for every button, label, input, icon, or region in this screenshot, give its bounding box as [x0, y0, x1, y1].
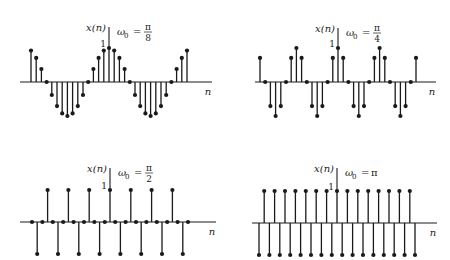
stem-dot: [367, 80, 371, 84]
stem-dot: [150, 188, 154, 192]
stem-dot: [372, 56, 376, 60]
stem-dot: [393, 104, 397, 108]
stem-dot: [300, 56, 304, 60]
stem-dot: [403, 253, 407, 257]
stem-dot: [133, 93, 137, 97]
stem-dot: [39, 67, 43, 71]
stem-dot: [50, 93, 54, 97]
omega-fraction-denominator: 2: [146, 174, 152, 184]
stem-dot: [175, 67, 179, 71]
stem-dot: [283, 189, 287, 193]
equals-sign: =: [362, 27, 370, 38]
stem-dot: [352, 104, 356, 108]
stem-dot: [165, 220, 169, 224]
stem-dot: [124, 220, 128, 224]
stem-dot: [45, 80, 49, 84]
stem-dot: [398, 114, 402, 118]
stem-dot: [56, 252, 60, 256]
stem-dot: [267, 253, 271, 257]
y-axis-label: x(n): [87, 163, 107, 174]
stem-dot: [257, 253, 261, 257]
stem-dot: [29, 48, 33, 52]
stem-dot: [82, 220, 86, 224]
stem-dot: [61, 220, 65, 224]
stem-dot: [181, 252, 185, 256]
stem-dot: [356, 189, 360, 193]
omega-fraction-numerator: π: [146, 163, 152, 173]
stem-dot: [46, 188, 50, 192]
stem-dot: [409, 80, 413, 84]
omega-subscript: 0: [124, 32, 128, 40]
stem-dot: [134, 220, 138, 224]
stem-dot: [387, 189, 391, 193]
stem-dot: [413, 253, 417, 257]
stem-dot: [273, 189, 277, 193]
stem-dot: [65, 114, 69, 118]
panel-omega-pi-over-4: x(n)1nω0=π4: [255, 23, 436, 118]
stem-dot: [340, 253, 344, 257]
y-tick-one: 1: [100, 39, 106, 49]
stem-dot: [81, 93, 85, 97]
stem-dot: [87, 188, 91, 192]
equals-sign: =: [361, 167, 369, 178]
stem-dot: [103, 220, 107, 224]
stem-dot: [371, 253, 375, 257]
panel-omega-pi-over-8: x(n)1nω0=π8: [20, 22, 212, 118]
stem-dot: [128, 80, 132, 84]
stem-dot: [305, 80, 309, 84]
stem-dot: [404, 104, 408, 108]
equals-sign: =: [133, 26, 141, 37]
panel-omega-pi: x(n)1nω0=π: [252, 163, 437, 257]
x-axis-label-n: n: [205, 86, 211, 97]
stem-dot: [278, 253, 282, 257]
stem-dot: [159, 104, 163, 108]
stem-dot: [186, 220, 190, 224]
x-axis-label-n: n: [429, 86, 435, 97]
stem-dot: [118, 252, 122, 256]
stem-plots-canvas: x(n)1nω0=π8 x(n)1nω0=π4 x(n)1nω0=π2 x(n)…: [0, 0, 450, 260]
x-axis-label-n: n: [430, 227, 436, 238]
stem-dot: [314, 189, 318, 193]
stem-dot: [279, 104, 283, 108]
stem-dot: [129, 188, 133, 192]
stem-dot: [336, 46, 340, 50]
stem-dot: [72, 220, 76, 224]
stem-dot: [288, 253, 292, 257]
stem-dot: [113, 220, 117, 224]
stem-dot: [274, 114, 278, 118]
stem-dot: [55, 104, 59, 108]
stem-dot: [397, 189, 401, 193]
stem-dot: [176, 220, 180, 224]
stem-dot: [341, 56, 345, 60]
stem-dot: [331, 56, 335, 60]
stem-dot: [91, 67, 95, 71]
y-tick-one: 1: [329, 39, 335, 49]
stem-dot: [262, 189, 266, 193]
stem-dot: [97, 56, 101, 60]
omega-subscript: 0: [353, 33, 357, 41]
stem-dot: [164, 93, 168, 97]
stem-dot: [138, 104, 142, 108]
stem-dot: [117, 56, 121, 60]
omega-fraction-numerator: π: [145, 22, 151, 32]
omega-fraction-numerator: π: [374, 23, 380, 33]
panel-omega-pi-over-2: x(n)1nω0=π2: [20, 163, 216, 256]
stem-dot: [51, 220, 55, 224]
stem-dot: [294, 46, 298, 50]
stem-dot: [408, 189, 412, 193]
stem-dot: [139, 252, 143, 256]
stem-dot: [309, 253, 313, 257]
x-axis-label-n: n: [209, 226, 215, 237]
stem-dot: [268, 104, 272, 108]
stem-dot: [123, 67, 127, 71]
stem-dot: [315, 114, 319, 118]
stem-dot: [86, 80, 90, 84]
omega-fraction-denominator: 8: [145, 33, 151, 43]
stem-dot: [388, 80, 392, 84]
y-axis-label: x(n): [314, 163, 334, 174]
stem-dot: [77, 252, 81, 256]
stem-dot: [377, 189, 381, 193]
stem-dot: [102, 48, 106, 52]
stem-dot: [154, 111, 158, 115]
stem-dot: [160, 252, 164, 256]
